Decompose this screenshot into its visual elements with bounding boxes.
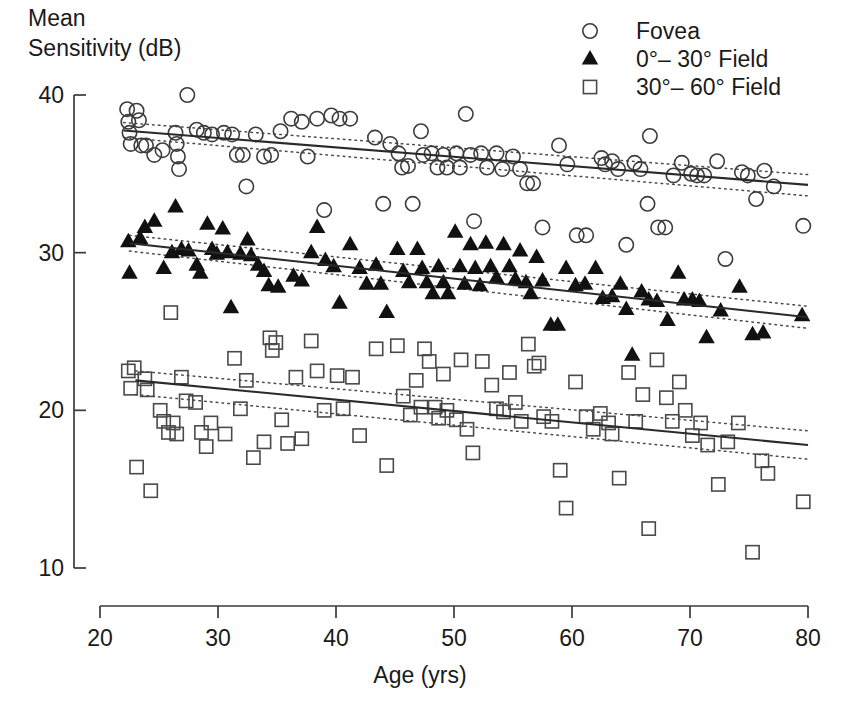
data-point-triangle	[582, 50, 599, 65]
data-point-square	[732, 416, 745, 429]
data-point-square	[537, 410, 550, 423]
data-point-square	[673, 375, 686, 388]
data-point-triangle	[612, 275, 629, 290]
data-point-circle	[273, 124, 287, 138]
data-point-square	[797, 495, 810, 508]
data-point-circle	[414, 124, 428, 138]
data-point-circle	[129, 104, 143, 118]
data-point-triangle	[389, 241, 406, 256]
data-point-square	[410, 374, 423, 387]
data-point-square	[266, 344, 279, 357]
legend: Fovea0°– 30° Field30°– 60° Field	[582, 18, 781, 100]
confidence-band-line	[124, 138, 808, 196]
y-axis-label-line1: Mean	[28, 5, 86, 31]
y-axis-label: Mean Sensitivity (dB)	[28, 5, 181, 61]
data-point-square	[247, 451, 260, 464]
x-tick-label: 30	[205, 625, 231, 651]
legend-label: 0°– 30° Field	[636, 46, 768, 72]
confidence-band-line	[130, 251, 809, 328]
scatter-chart: Mean Sensitivity (dB) 10203040 203040506…	[0, 0, 841, 712]
data-point-square	[346, 371, 359, 384]
data-point-triangle	[755, 324, 772, 339]
data-point-circle	[619, 238, 633, 252]
data-point-circle	[147, 148, 161, 162]
data-point-square	[289, 371, 302, 384]
data-point-triangle	[409, 241, 426, 256]
series-open-square	[122, 306, 810, 559]
data-point-square	[175, 371, 188, 384]
data-point-circle	[324, 108, 338, 122]
data-point-square	[353, 429, 366, 442]
data-point-triangle	[167, 198, 184, 213]
x-tick-label: 60	[559, 625, 585, 651]
data-point-square	[144, 484, 157, 497]
data-point-triangle	[659, 311, 676, 326]
data-point-circle	[489, 146, 503, 160]
data-point-square	[528, 360, 541, 373]
data-point-square	[228, 352, 241, 365]
data-point-square	[554, 464, 567, 477]
data-point-circle	[552, 138, 566, 152]
data-point-square	[257, 435, 270, 448]
legend-label: Fovea	[636, 18, 700, 44]
data-point-triangle	[731, 278, 748, 293]
data-point-circle	[495, 162, 509, 176]
figure-container: Mean Sensitivity (dB) 10203040 203040506…	[0, 0, 841, 712]
data-point-square	[485, 379, 498, 392]
x-tick-label: 70	[677, 625, 703, 651]
data-point-square	[476, 355, 489, 368]
data-point-square	[454, 353, 467, 366]
data-point-square	[660, 391, 673, 404]
data-point-circle	[155, 143, 169, 157]
data-point-circle	[643, 129, 657, 143]
data-point-triangle	[447, 223, 464, 238]
data-point-triangle	[462, 236, 479, 251]
data-point-square	[391, 339, 404, 352]
data-point-triangle	[456, 275, 473, 290]
data-point-circle	[749, 192, 763, 206]
regression-line	[124, 130, 808, 184]
data-point-triangle	[146, 212, 163, 227]
data-point-square	[305, 334, 318, 347]
data-point-triangle	[495, 236, 512, 251]
data-point-circle	[640, 197, 654, 211]
data-point-circle	[310, 111, 324, 125]
data-point-circle	[249, 127, 263, 141]
data-point-square	[423, 355, 436, 368]
data-point-circle	[449, 146, 463, 160]
data-point-circle	[300, 149, 314, 163]
data-point-triangle	[472, 277, 489, 292]
data-point-square	[380, 459, 393, 472]
data-point-circle	[627, 156, 641, 170]
data-point-triangle	[331, 294, 348, 309]
data-point-square	[569, 375, 582, 388]
data-point-triangle	[512, 242, 529, 257]
data-point-square	[331, 369, 344, 382]
data-point-triangle	[624, 346, 641, 361]
data-point-square	[560, 501, 573, 514]
data-point-circle	[376, 197, 390, 211]
data-point-circle	[710, 154, 724, 168]
data-point-square	[712, 478, 725, 491]
data-point-triangle	[501, 258, 518, 273]
data-point-circle	[406, 197, 420, 211]
data-point-circle	[583, 24, 597, 38]
data-point-triangle	[309, 218, 326, 233]
y-tick-label: 40	[38, 82, 64, 108]
data-point-triangle	[587, 259, 604, 274]
data-point-triangle	[121, 264, 138, 279]
data-point-square	[204, 416, 217, 429]
data-point-square	[200, 440, 213, 453]
data-point-circle	[239, 179, 253, 193]
data-point-triangle	[478, 234, 495, 249]
data-point-triangle	[534, 272, 551, 287]
data-point-square	[583, 80, 596, 93]
data-point-square	[275, 413, 288, 426]
y-axis-label-line2: Sensitivity (dB)	[28, 35, 181, 61]
data-point-square	[650, 353, 663, 366]
data-point-square	[580, 410, 593, 423]
data-point-square	[124, 382, 137, 395]
data-point-triangle	[558, 259, 575, 274]
data-point-triangle	[378, 304, 395, 319]
data-point-square	[295, 432, 308, 445]
